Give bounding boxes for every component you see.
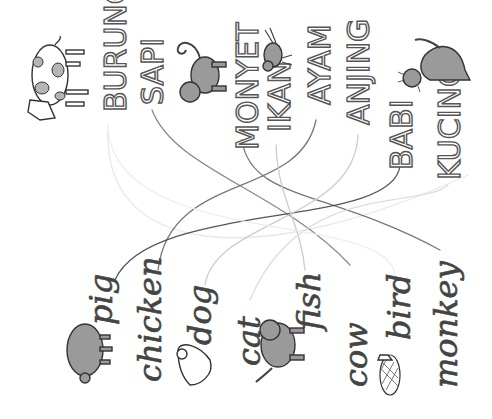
word-dog: dog (181, 285, 219, 345)
matching-worksheet: BURUNG SAPI MONYET IKAN AYAM ANJING BABI… (0, 0, 492, 419)
word-chicken: chicken (131, 256, 169, 382)
word-babi: BABI (384, 99, 419, 170)
word-burung: BURUNG (98, 0, 133, 112)
line-burung-bird (108, 130, 395, 275)
indonesian-word-list: BURUNG SAPI MONYET IKAN AYAM ANJING BABI… (98, 0, 467, 180)
word-kucing: KUCING (432, 64, 467, 180)
word-sapi: SAPI (135, 38, 170, 105)
word-ayam: AYAM (302, 24, 337, 105)
word-bird: bird (380, 274, 418, 341)
cow-picture (28, 36, 88, 120)
word-monyet: MONYET (230, 22, 265, 150)
pig-picture (67, 324, 112, 383)
word-pig: pig (82, 274, 120, 325)
word-cow: cow (337, 322, 375, 387)
word-anjing: ANJING (341, 19, 376, 125)
word-fish: fish (290, 272, 328, 332)
fish-picture (378, 355, 400, 395)
monkey-picture (178, 43, 226, 102)
word-ikan: IKAN (262, 61, 297, 132)
word-monkey: monkey (427, 260, 465, 388)
chicken-picture (177, 345, 211, 385)
dog-picture (256, 320, 304, 382)
